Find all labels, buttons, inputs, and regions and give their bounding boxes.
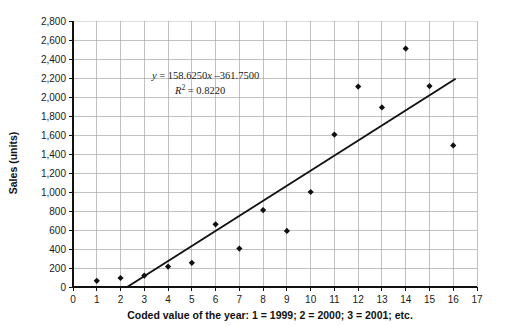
y-tick-label: 1,800	[41, 111, 66, 122]
x-tick-label: 5	[189, 294, 195, 305]
x-tick-label: 12	[353, 294, 365, 305]
x-tick-label: 10	[305, 294, 317, 305]
regression-equation-label: y = 158.6250x –361.7500	[151, 70, 259, 81]
y-tick-label: 1,600	[41, 130, 66, 141]
x-tick-label: 4	[165, 294, 171, 305]
equation-variable-y: y	[151, 70, 159, 81]
x-tick-label: 8	[260, 294, 266, 305]
y-axis-title: Sales (units)	[7, 132, 19, 194]
r-equals-value: = 0.8220	[185, 85, 225, 96]
x-tick-label: 15	[424, 294, 436, 305]
y-tick-label: 2,600	[41, 35, 66, 46]
y-tick-label: 200	[49, 263, 66, 274]
x-tick-label: 9	[284, 294, 290, 305]
chart-canvas: 02004006008001,0001,2001,4001,6001,8002,…	[0, 0, 509, 326]
equation-equals: =	[159, 70, 168, 81]
x-axis-title: Coded value of the year: 1 = 1999; 2 = 2…	[127, 309, 413, 321]
y-tick-label: 2,200	[41, 73, 66, 84]
y-tick-label: 0	[60, 282, 66, 293]
x-tick-label: 7	[237, 294, 243, 305]
x-tick-label: 16	[448, 294, 460, 305]
x-tick-label: 3	[142, 294, 148, 305]
x-tick-label: 0	[70, 294, 76, 305]
y-tick-label: 2,000	[41, 92, 66, 103]
equation-slope: 158.6250	[168, 70, 207, 81]
scatter-chart: 02004006008001,0001,2001,4001,6001,8002,…	[0, 0, 509, 326]
x-tick-label: 11	[329, 294, 340, 305]
x-tick-label: 1	[94, 294, 100, 305]
y-tick-label: 1,000	[41, 187, 66, 198]
y-tick-label: 2,400	[41, 54, 66, 65]
y-tick-label: 600	[49, 225, 66, 236]
equation-intercept: –361.7500	[212, 70, 259, 81]
x-tick-label: 2	[118, 294, 124, 305]
y-tick-label: 1,400	[41, 149, 66, 160]
x-tick-label: 17	[471, 294, 483, 305]
y-tick-label: 800	[49, 206, 66, 217]
y-tick-label: 2,800	[41, 16, 66, 27]
y-tick-label: 400	[49, 244, 66, 255]
chart-background	[0, 0, 509, 326]
x-tick-label: 13	[376, 294, 388, 305]
y-tick-label: 1,200	[41, 168, 66, 179]
x-tick-label: 14	[400, 294, 412, 305]
x-tick-label: 6	[213, 294, 219, 305]
